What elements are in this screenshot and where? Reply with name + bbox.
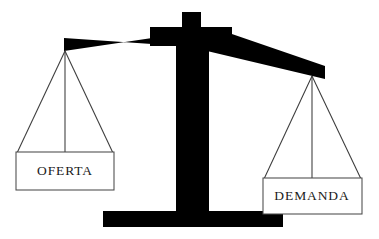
balance-scale-illustration: OFERTA DEMANDA — [0, 0, 379, 239]
beam-pivot-block — [150, 27, 232, 46]
right-pan-cords — [264, 76, 361, 179]
base-plate — [103, 211, 283, 227]
left-pan-cords — [17, 51, 113, 153]
balance-scale-figure: OFERTA DEMANDA — [0, 0, 379, 239]
right-pan-label: DEMANDA — [274, 188, 349, 203]
central-post — [176, 30, 209, 213]
left-pan-label: OFERTA — [37, 163, 93, 178]
